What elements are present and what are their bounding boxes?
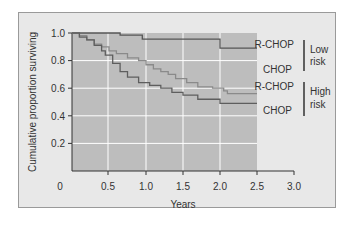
survival-chart: 1.0 0.8 0.6 0.4 0.2 0 0.5 1.0 1.5 2.0 2.… (0, 0, 359, 231)
x-tick-labels: 0 0.5 1.0 1.5 2.0 2.5 3.0 (57, 181, 301, 192)
y-tick-0.2: 0.2 (51, 138, 65, 149)
label-high-chop: CHOP (263, 105, 292, 116)
y-axis-title: Cumulative proportion surviving (27, 32, 38, 172)
group-label-low-risk: risk (310, 56, 327, 67)
y-tick-0.4: 0.4 (51, 111, 65, 122)
group-label-low: Low (310, 44, 329, 55)
x-tick-3.0: 3.0 (287, 181, 301, 192)
group-label-high-risk: risk (310, 99, 327, 110)
x-tick-2.5: 2.5 (250, 181, 264, 192)
y-tick-1.0: 1.0 (51, 28, 65, 39)
plot-area (72, 33, 257, 171)
x-tick-1.5: 1.5 (176, 181, 190, 192)
curve-labels: R-CHOP CHOP R-CHOP CHOP (255, 39, 295, 116)
label-low-chop: CHOP (263, 64, 292, 75)
y-tick-labels: 1.0 0.8 0.6 0.4 0.2 (51, 28, 65, 149)
y-tick-0.8: 0.8 (51, 55, 65, 66)
x-axis-title: Years (170, 199, 195, 210)
label-high-rchop: R-CHOP (255, 81, 295, 92)
x-tick-2.0: 2.0 (213, 181, 227, 192)
y-tick-0.6: 0.6 (51, 83, 65, 94)
group-label-high: High (310, 86, 331, 97)
label-low-rchop: R-CHOP (255, 39, 295, 50)
x-tick-0: 0 (57, 181, 63, 192)
x-tick-0.5: 0.5 (101, 181, 115, 192)
x-tick-1.0: 1.0 (139, 181, 153, 192)
